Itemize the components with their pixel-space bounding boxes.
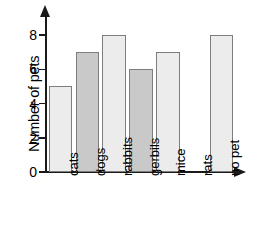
y-axis-tick (39, 103, 45, 105)
y-axis-tick-label: 4 (0, 97, 37, 111)
x-axis-label-rabbits: rabbits (120, 106, 136, 176)
x-axis-label-cats: cats (66, 106, 82, 176)
y-axis-tick (39, 171, 45, 173)
y-axis-arrow-icon (40, 5, 50, 17)
y-axis-tick-label: 0 (0, 165, 37, 179)
y-axis-tick-label: 6 (0, 62, 37, 76)
y-axis-tick-label: 2 (0, 131, 37, 145)
y-axis-tick (39, 34, 45, 36)
x-axis-label-dogs: dogs (93, 106, 109, 176)
y-axis-tick (39, 137, 45, 139)
x-axis-label-no-pet: no pet (227, 106, 243, 176)
y-axis-tick-label: 8 (0, 28, 37, 42)
x-axis-label-mice: mice (173, 106, 189, 176)
y-axis-tick (39, 69, 45, 71)
x-axis-label-rats: rats (200, 106, 216, 176)
bar-chart: Number of pets 02468 catsdogsrabbitsgerb… (0, 0, 261, 228)
x-axis-label-gerbils: gerbils (147, 106, 163, 176)
